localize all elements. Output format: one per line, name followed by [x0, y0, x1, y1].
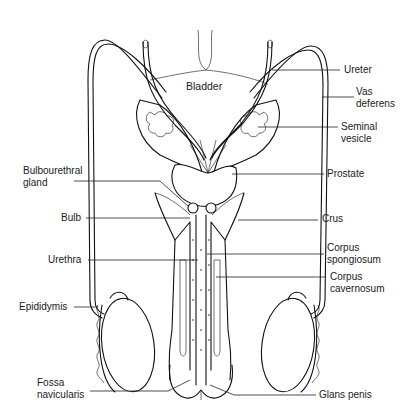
- label-seminal-vesicle: Seminal vesicle: [341, 121, 377, 144]
- label-corpus-spongiosum: Corpus spongiosum: [327, 242, 381, 265]
- bladder: [150, 30, 268, 84]
- label-corpus-cavernosum: Corpus cavernosum: [330, 271, 384, 294]
- ureter-right: [210, 40, 273, 160]
- penis-shaft: [175, 215, 225, 385]
- anatomy-diagram: [0, 0, 416, 420]
- label-vas-deferens: Vas deferens: [356, 86, 395, 109]
- crus-left: [155, 193, 175, 380]
- testis-right: [256, 292, 321, 395]
- label-prostate: Prostate: [327, 168, 364, 180]
- label-bulb: Bulb: [61, 212, 81, 224]
- label-epididymis: Epididymis: [19, 301, 67, 313]
- label-fossa-navicularis: Fossa navicularis: [37, 377, 84, 400]
- label-bulbourethral-gland: Bulbourethral gland: [23, 165, 82, 188]
- label-urethra: Urethra: [48, 254, 81, 266]
- label-ureter: Ureter: [344, 64, 372, 76]
- ureter-left: [143, 40, 206, 160]
- crus-right: [225, 193, 244, 380]
- testis-left: [96, 292, 161, 395]
- label-bladder: Bladder: [186, 81, 222, 93]
- seminal-vesicle-right: [214, 100, 279, 172]
- label-crus: Crus: [322, 213, 343, 225]
- label-glans-penis: Glans penis: [319, 389, 372, 401]
- bulbourethral-gland-left: [188, 203, 198, 213]
- bulbourethral-gland-right: [206, 203, 216, 213]
- vas-deferens-left: [88, 40, 166, 318]
